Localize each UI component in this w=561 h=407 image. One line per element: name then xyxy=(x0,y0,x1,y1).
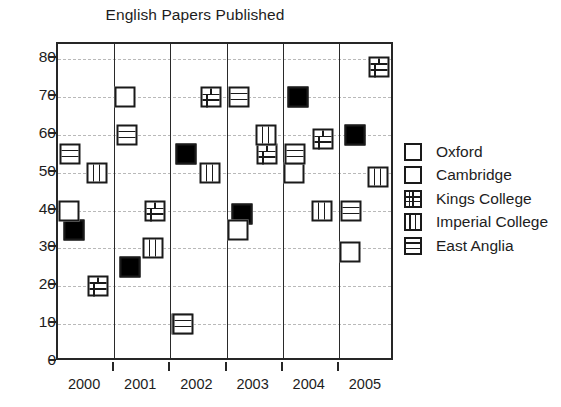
legend-item-east-anglia[interactable]: East Anglia xyxy=(404,234,556,258)
data-marker xyxy=(172,314,193,335)
data-marker xyxy=(59,200,80,221)
y-axis-tick-mark xyxy=(49,208,56,210)
data-marker xyxy=(255,124,276,145)
legend-item-label: Oxford xyxy=(436,143,483,161)
data-marker xyxy=(311,200,332,221)
brick-square-icon xyxy=(404,190,422,208)
legend-item-label: East Anglia xyxy=(436,237,514,255)
y-axis-tick-mark xyxy=(49,94,56,96)
data-marker xyxy=(369,56,390,77)
data-marker xyxy=(199,162,220,183)
x-axis-tick-label: 2003 xyxy=(223,376,283,392)
x-axis-tick-mark xyxy=(337,362,339,371)
x-axis-tick-mark xyxy=(168,362,170,371)
data-marker xyxy=(227,219,248,240)
legend-item-label: Cambridge xyxy=(436,166,512,184)
vertical-stripe-square-icon xyxy=(404,213,422,231)
y-axis-tick-mark xyxy=(49,359,56,361)
data-marker xyxy=(143,238,164,259)
data-marker xyxy=(288,87,309,108)
x-axis-tick-label: 2005 xyxy=(335,376,395,392)
chart-title: English Papers Published xyxy=(0,6,390,24)
data-marker-layer xyxy=(58,44,391,358)
y-axis-ticks xyxy=(49,42,56,360)
legend-item-label: Imperial College xyxy=(436,213,548,231)
x-axis-tick-mark xyxy=(281,362,283,371)
solid-black-square-icon xyxy=(404,143,422,161)
legend-item-label: Kings College xyxy=(436,190,532,208)
y-axis-tick-mark xyxy=(49,283,56,285)
data-marker xyxy=(119,257,140,278)
legend-item-imperial-college[interactable]: Imperial College xyxy=(404,211,556,235)
y-axis-tick-mark xyxy=(49,170,56,172)
legend-item-oxford[interactable]: Oxford xyxy=(404,140,556,164)
data-marker xyxy=(256,143,277,164)
y-axis-tick-mark xyxy=(49,56,56,58)
data-marker xyxy=(200,87,221,108)
data-marker xyxy=(313,128,334,149)
legend: OxfordCambridgeKings CollegeImperial Col… xyxy=(404,140,556,258)
y-axis-tick-mark xyxy=(49,245,56,247)
data-marker xyxy=(116,124,137,145)
x-axis-tick-label: 2002 xyxy=(166,376,226,392)
plot-area xyxy=(56,42,393,360)
data-marker xyxy=(63,219,84,240)
chart-root: English Papers Published 807060504030201… xyxy=(0,0,561,407)
x-axis: 200020012002200320042005 xyxy=(56,362,393,404)
data-marker xyxy=(228,87,249,108)
x-axis-tick-label: 2001 xyxy=(110,376,170,392)
x-axis-tick-mark xyxy=(112,362,114,371)
data-marker xyxy=(144,200,165,221)
data-marker xyxy=(115,87,136,108)
data-marker xyxy=(340,242,361,263)
data-marker xyxy=(285,143,306,164)
data-marker xyxy=(176,143,197,164)
y-axis-tick-mark xyxy=(49,132,56,134)
data-marker xyxy=(283,162,304,183)
empty-white-square-icon xyxy=(404,166,422,184)
data-marker xyxy=(88,276,109,297)
data-marker xyxy=(368,166,389,187)
x-axis-tick-mark xyxy=(225,362,227,371)
data-marker xyxy=(341,200,362,221)
data-marker xyxy=(60,143,81,164)
x-axis-tick-label: 2004 xyxy=(279,376,339,392)
legend-item-kings-college[interactable]: Kings College xyxy=(404,187,556,211)
x-axis-tick-label: 2000 xyxy=(54,376,114,392)
data-marker xyxy=(344,124,365,145)
horizontal-stripe-square-icon xyxy=(404,237,422,255)
data-marker xyxy=(87,162,108,183)
y-axis-tick-mark xyxy=(49,321,56,323)
legend-item-cambridge[interactable]: Cambridge xyxy=(404,164,556,188)
